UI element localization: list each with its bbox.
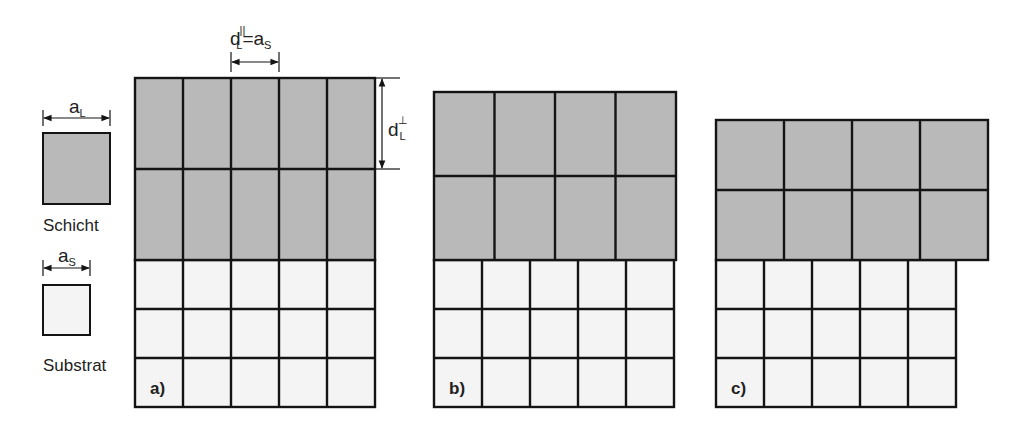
legend-substrate: aS Substrat <box>43 245 107 375</box>
panel-c: c) <box>716 120 988 407</box>
legend-layer-symbol: aL <box>69 96 86 119</box>
panel-a: a) <box>135 78 375 407</box>
annotation-parallel-spacing: d||L=aS <box>230 24 279 72</box>
panel-label: c) <box>731 379 746 398</box>
substrate-grid <box>434 260 674 407</box>
layer-grid <box>716 120 988 260</box>
legend-layer-cell <box>43 133 110 204</box>
substrate-grid <box>135 260 375 407</box>
legend-substrate-label: Substrat <box>43 356 107 375</box>
panels: a)b)c) <box>135 78 988 407</box>
lattice-diagram: aL Schicht aS Substrat a)b)c) d||L=aS <box>0 0 1026 433</box>
substrate-grid-fill <box>434 260 674 407</box>
panel-label: b) <box>449 379 465 398</box>
annotation-perpendicular-spacing: d⊥L <box>376 78 408 169</box>
annotation-perpendicular-label: d⊥L <box>388 114 408 142</box>
layer-grid <box>434 92 676 260</box>
legend-substrate-symbol: aS <box>58 245 76 268</box>
legend-layer: aL Schicht <box>43 96 110 235</box>
substrate-grid <box>716 260 956 407</box>
legend-substrate-cell <box>43 285 90 335</box>
panel-label: a) <box>150 379 165 398</box>
annotation-parallel-label: d||L=aS <box>230 24 271 51</box>
layer-grid <box>135 78 375 260</box>
substrate-grid-fill <box>135 260 375 407</box>
substrate-grid-fill <box>716 260 956 407</box>
panel-b: b) <box>434 92 676 407</box>
legend-layer-label: Schicht <box>43 216 99 235</box>
diagram-canvas: aL Schicht aS Substrat a)b)c) d||L=aS <box>0 0 1026 433</box>
